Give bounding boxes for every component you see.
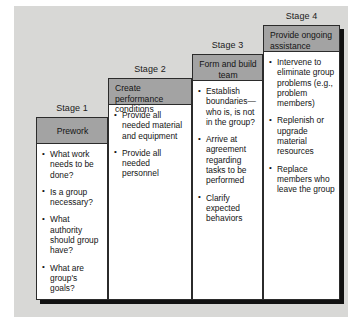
stage-body-2: Provide all needed material and equipmen… — [109, 105, 191, 183]
stage-bullet-list-4: Intervene to eliminate group problems (e… — [269, 57, 335, 195]
stage-body-3: Establish boundaries—who is, is not in t… — [193, 81, 262, 228]
staircase-diagram: Stage 1 Prework What work needs to be do… — [0, 0, 360, 327]
stage-header-1: Prework — [37, 118, 107, 144]
stage-bullet-list-3: Establish boundaries—who is, is not in t… — [198, 86, 258, 224]
stage-label-4: Stage 4 — [263, 11, 340, 21]
stage-column-3: Stage 3 Form and build team Establish bo… — [192, 40, 263, 300]
list-item: Establish boundaries—who is, is not in t… — [198, 86, 258, 127]
stage-bullet-list-2: Provide all needed material and equipmen… — [114, 110, 187, 179]
stage-label-3: Stage 3 — [192, 40, 263, 50]
stage-column-2: Stage 2 Create performance conditions Pr… — [108, 64, 192, 300]
list-item: Is a group necessary? — [42, 187, 103, 208]
stage-bullet-list-1: What work needs to be done? Is a group n… — [42, 149, 103, 294]
stage-header-4: Provide ongoing assistance — [264, 26, 339, 52]
list-item: Clarify expected behaviors — [198, 193, 258, 224]
stage-box-1: Prework What work needs to be done? Is a… — [36, 117, 108, 300]
stage-label-2: Stage 2 — [108, 64, 192, 74]
list-item: Intervene to eliminate group problems (e… — [269, 57, 335, 108]
stage-box-3: Form and build team Establish boundaries… — [192, 54, 263, 300]
stage-header-2: Create performance conditions — [109, 79, 191, 105]
list-item: Replenish or upgrade material resources — [269, 115, 335, 156]
list-item: What authority should group have? — [42, 214, 103, 255]
list-item: Replace members who leave the group — [269, 164, 335, 195]
stage-header-3: Form and build team — [193, 55, 262, 81]
list-item: Arrive at agreement regarding tasks to b… — [198, 134, 258, 185]
list-item: What work needs to be done? — [42, 149, 103, 180]
list-item: Provide all needed material and equipmen… — [114, 110, 187, 141]
stage-body-1: What work needs to be done? Is a group n… — [37, 144, 107, 298]
list-item: What are group's goals? — [42, 263, 103, 294]
stage-box-4: Provide ongoing assistance Intervene to … — [263, 25, 340, 300]
stage-body-4: Intervene to eliminate group problems (e… — [264, 52, 339, 199]
list-item: Provide all needed personnel — [114, 148, 187, 179]
stage-column-1: Stage 1 Prework What work needs to be do… — [36, 103, 108, 300]
stage-label-1: Stage 1 — [36, 103, 108, 113]
stage-box-2: Create performance conditions Provide al… — [108, 78, 192, 300]
stage-column-4: Stage 4 Provide ongoing assistance Inter… — [263, 11, 340, 300]
